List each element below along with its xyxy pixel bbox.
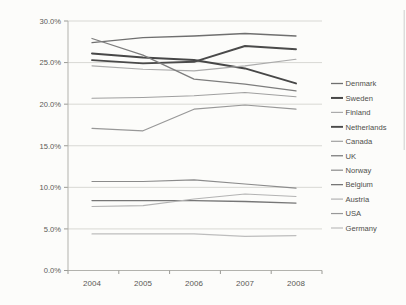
line-chart: 0.0%5.0%10.0%15.0%20.0%25.0%30.0%2004200… xyxy=(0,0,406,305)
legend-label-germany: Germany xyxy=(346,224,377,233)
legend-label-uk: UK xyxy=(346,152,357,161)
legend-label-belgium: Belgium xyxy=(346,180,373,189)
legend-label-netherlands: Netherlands xyxy=(346,123,387,132)
y-axis-tick-label: 30.0% xyxy=(39,17,61,26)
legend-label-austria: Austria xyxy=(346,195,370,204)
y-axis-tick-label: 25.0% xyxy=(39,58,61,67)
y-axis-tick-label: 15.0% xyxy=(39,142,61,151)
y-axis-tick-label: 10.0% xyxy=(39,183,61,192)
series-line-usa xyxy=(92,105,296,131)
legend-label-denmark: Denmark xyxy=(346,79,377,88)
series-line-germany xyxy=(92,234,296,237)
x-axis-tick-label: 2007 xyxy=(236,279,254,288)
x-axis-tick-label: 2008 xyxy=(287,279,305,288)
x-axis-tick-label: 2006 xyxy=(185,279,203,288)
legend-label-canada: Canada xyxy=(346,137,373,146)
y-axis-tick-label: 20.0% xyxy=(39,100,61,109)
legend-label-finland: Finland xyxy=(346,108,371,117)
y-axis-tick-label: 0.0% xyxy=(44,266,62,275)
chart-container: 0.0%5.0%10.0%15.0%20.0%25.0%30.0%2004200… xyxy=(0,0,406,305)
series-line-belgium xyxy=(92,201,296,204)
legend-label-sweden: Sweden xyxy=(346,94,373,103)
x-axis-tick-label: 2004 xyxy=(83,279,101,288)
series-line-uk xyxy=(92,39,296,91)
series-line-denmark xyxy=(92,34,296,43)
x-axis-tick-label: 2005 xyxy=(134,279,152,288)
y-axis-tick-label: 5.0% xyxy=(44,225,62,234)
legend-label-norway: Norway xyxy=(346,166,372,175)
legend-label-usa: USA xyxy=(346,209,363,218)
series-line-canada xyxy=(92,93,296,99)
